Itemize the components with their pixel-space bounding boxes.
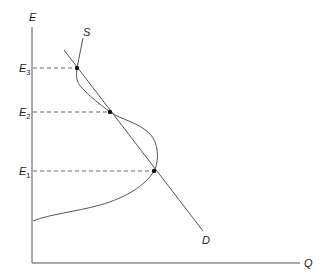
diagram-canvas: E Q D S E3 E2 E1	[0, 0, 323, 277]
equilibrium-point-e1	[152, 169, 156, 173]
e3-label: E3	[19, 62, 31, 77]
equilibrium-point-e3	[75, 66, 79, 70]
x-axis-label: Q	[304, 257, 313, 269]
supply-curve	[33, 38, 157, 221]
demand-curve	[64, 50, 203, 231]
e2-label: E2	[19, 106, 31, 121]
diagram-svg: E Q D S E3 E2 E1	[0, 0, 323, 277]
y-axis-label: E	[29, 11, 37, 23]
e1-label: E1	[19, 165, 31, 180]
demand-label: D	[202, 234, 210, 246]
supply-label: S	[83, 26, 91, 38]
equilibrium-point-e2	[108, 110, 112, 114]
